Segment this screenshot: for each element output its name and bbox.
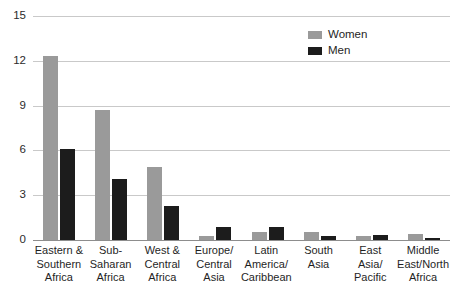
x-axis-category-label: Eastern & Southern Africa (33, 244, 85, 285)
bar-group (398, 16, 450, 240)
bar-group (242, 16, 294, 240)
x-axis-category-label: Europe/ Central Asia (188, 244, 240, 285)
bar-women (43, 56, 58, 240)
bar-men (373, 235, 388, 240)
bar-women (304, 232, 319, 240)
x-axis-category-label: Sub- Saharan Africa (85, 244, 137, 285)
bar-chart: 03691215 Eastern & Southern AfricaSub- S… (0, 0, 460, 296)
x-axis-category-label: East Asia/ Pacific (344, 244, 396, 285)
y-axis-tick-label: 12 (13, 55, 26, 67)
y-axis-tick-label: 6 (20, 145, 26, 157)
bar-women (147, 167, 162, 240)
legend-swatch-icon (308, 31, 322, 39)
bar-men (164, 206, 179, 240)
legend-swatch-icon (308, 47, 322, 55)
bar-men (321, 236, 336, 240)
bar-women (356, 236, 371, 240)
bar-men (112, 179, 127, 240)
legend-label: Women (328, 29, 367, 41)
x-axis-category-labels: Eastern & Southern AfricaSub- Saharan Af… (33, 244, 450, 285)
y-axis-tick-label: 0 (20, 234, 26, 246)
bar-men (425, 238, 440, 240)
legend-label: Men (328, 45, 350, 57)
bar-group (137, 16, 189, 240)
legend-item: Women (308, 28, 367, 42)
bar-women (252, 232, 267, 240)
bar-men (60, 149, 75, 240)
y-axis-tick-label: 9 (20, 100, 26, 112)
bar-group (33, 16, 85, 240)
bar-groups (33, 16, 450, 240)
bar-women (408, 234, 423, 240)
x-axis-category-label: West & Central Africa (136, 244, 188, 285)
y-axis-tick-label: 15 (13, 10, 26, 22)
x-axis-category-label: Latin America/ Caribbean (240, 244, 293, 285)
bar-women (95, 110, 110, 240)
bar-women (199, 236, 214, 240)
x-axis-category-label: Middle East/North Africa (396, 244, 450, 285)
bar-men (269, 227, 284, 240)
plot-area: 03691215 (33, 16, 450, 240)
bar-group (85, 16, 137, 240)
x-axis-category-label: South Asia (293, 244, 345, 285)
legend-item: Men (308, 44, 367, 58)
bar-group (189, 16, 241, 240)
bar-men (216, 227, 231, 240)
y-axis-tick-label: 3 (20, 189, 26, 201)
chart-legend: WomenMen (308, 28, 367, 60)
axis-baseline: 0 (33, 240, 450, 241)
